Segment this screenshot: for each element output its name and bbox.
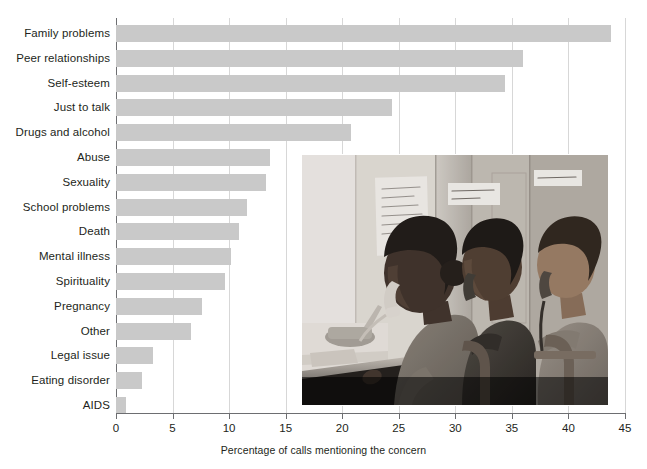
x-tickmark-10 <box>229 414 230 419</box>
x-tickmark-0 <box>116 414 117 419</box>
x-tick-label: 0 <box>113 421 119 435</box>
hotline-photograph <box>302 155 608 405</box>
bar <box>116 273 225 290</box>
bar-row <box>116 75 625 92</box>
category-label: Sexuality <box>2 174 110 191</box>
bar <box>116 174 266 191</box>
bar <box>116 149 270 166</box>
bar <box>116 223 239 240</box>
category-label: Pregnancy <box>2 298 110 315</box>
x-tickmark-30 <box>455 414 456 419</box>
x-tick-label: 40 <box>562 421 575 435</box>
x-axis-tick-labels: 051015202530354045 <box>0 421 647 437</box>
bar <box>116 347 153 364</box>
category-label: Legal issue <box>2 347 110 364</box>
category-label: Just to talk <box>2 99 110 116</box>
category-label: Mental illness <box>2 248 110 265</box>
bar-row <box>116 25 625 42</box>
bar-chart-figure: Family problemsPeer relationshipsSelf-es… <box>0 0 647 469</box>
gridline-45 <box>625 18 626 414</box>
x-tickmark-40 <box>568 414 569 419</box>
category-axis: Family problemsPeer relationshipsSelf-es… <box>0 18 110 414</box>
x-tickmark-15 <box>286 414 287 419</box>
bar <box>116 99 392 116</box>
category-label: AIDS <box>2 397 110 414</box>
x-tick-label: 5 <box>169 421 175 435</box>
category-label: Abuse <box>2 149 110 166</box>
bar <box>116 50 523 67</box>
x-tick-label: 35 <box>505 421 518 435</box>
bar <box>116 75 505 92</box>
x-tickmark-20 <box>342 414 343 419</box>
x-axis-line <box>116 413 626 414</box>
category-label: Eating disorder <box>2 372 110 389</box>
bar <box>116 298 202 315</box>
bar <box>116 323 191 340</box>
category-label: Self-esteem <box>2 75 110 92</box>
x-tick-label: 20 <box>336 421 349 435</box>
x-tickmark-45 <box>625 414 626 419</box>
x-tick-label: 10 <box>223 421 236 435</box>
x-tickmark-35 <box>512 414 513 419</box>
bar-row <box>116 99 625 116</box>
x-axis-title: Percentage of calls mentioning the conce… <box>0 444 647 456</box>
bar <box>116 397 126 414</box>
bar <box>116 25 611 42</box>
bar <box>116 248 231 265</box>
category-label: Drugs and alcohol <box>2 124 110 141</box>
bar-row <box>116 50 625 67</box>
bar-row <box>116 124 625 141</box>
category-label: Death <box>2 223 110 240</box>
category-label: School problems <box>2 199 110 216</box>
bar <box>116 372 142 389</box>
category-label: Peer relationships <box>2 50 110 67</box>
x-tickmark-25 <box>399 414 400 419</box>
x-tick-label: 30 <box>449 421 462 435</box>
category-label: Spirituality <box>2 273 110 290</box>
category-label: Family problems <box>2 25 110 42</box>
x-tick-label: 25 <box>392 421 405 435</box>
x-tick-label: 15 <box>279 421 292 435</box>
category-label: Other <box>2 323 110 340</box>
bar <box>116 199 247 216</box>
bar <box>116 124 351 141</box>
photo-artwork <box>302 155 608 405</box>
x-tick-label: 45 <box>619 421 632 435</box>
x-tickmark-5 <box>173 414 174 419</box>
